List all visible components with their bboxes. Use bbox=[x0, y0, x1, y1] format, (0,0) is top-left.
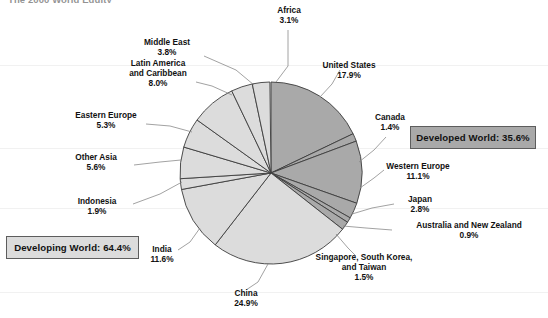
slice-label-japan: Japan 2.8% bbox=[398, 194, 442, 214]
slice-label-other-asia-pct: 5.6% bbox=[58, 162, 134, 172]
slice-label-china-name: China bbox=[234, 288, 257, 298]
slice-label-india-pct: 11.6% bbox=[138, 254, 186, 264]
slice-label-eastern-europe-pct: 5.3% bbox=[66, 120, 146, 130]
developed-world-summary-box: Developed World: 35.6% bbox=[410, 126, 536, 149]
slice-label-eastern-europe-name: Eastern Europe bbox=[75, 110, 136, 120]
slice-label-sskt-line1: Singapore, South Korea, bbox=[316, 252, 413, 262]
slice-label-china-pct: 24.9% bbox=[222, 298, 270, 308]
chart-canvas: The 2000 World Equity bbox=[0, 0, 548, 318]
leader-line-eastern-europe bbox=[146, 124, 192, 132]
slice-label-sskt-pct: 1.5% bbox=[294, 272, 434, 282]
slice-label-india: India 11.6% bbox=[138, 244, 186, 264]
slice-label-middle-east-name: Middle East bbox=[144, 37, 190, 47]
slice-label-singapore-korea-taiwan: Singapore, South Korea, and Taiwan 1.5% bbox=[294, 252, 434, 283]
pie-slice-group bbox=[180, 82, 362, 264]
slice-label-other-asia-name: Other Asia bbox=[75, 152, 117, 162]
slice-label-western-europe-name: Western Europe bbox=[386, 161, 449, 171]
leader-line-middle-east bbox=[204, 56, 254, 85]
slice-label-sskt-line2: and Taiwan bbox=[294, 262, 434, 272]
slice-label-middle-east: Middle East 3.8% bbox=[130, 37, 204, 57]
slice-label-australia-nz: Australia and New Zealand 0.9% bbox=[396, 220, 542, 240]
slice-label-china: China 24.9% bbox=[222, 288, 270, 308]
leader-line-china bbox=[246, 264, 268, 290]
leader-line-japan bbox=[352, 204, 394, 214]
slice-label-australia-nz-name: Australia and New Zealand bbox=[416, 220, 522, 230]
slice-label-africa-name: Africa bbox=[277, 5, 301, 15]
leader-line-canada bbox=[359, 137, 386, 162]
slice-label-other-asia: Other Asia 5.6% bbox=[58, 152, 134, 172]
slice-label-indonesia-pct: 1.9% bbox=[60, 206, 134, 216]
slice-label-middle-east-pct: 3.8% bbox=[130, 47, 204, 57]
slice-label-western-europe-pct: 11.1% bbox=[376, 171, 460, 181]
slice-label-africa-pct: 3.1% bbox=[254, 15, 324, 25]
leader-line-indonesia bbox=[133, 182, 182, 204]
slice-label-western-europe: Western Europe 11.1% bbox=[376, 161, 460, 181]
leader-line-other-asia bbox=[134, 160, 181, 165]
slice-label-japan-pct: 2.8% bbox=[398, 204, 442, 214]
slice-label-canada-name: Canada bbox=[375, 112, 405, 122]
leader-line-australia-nz bbox=[343, 226, 392, 230]
slice-label-indonesia-name: Indonesia bbox=[78, 196, 117, 206]
slice-label-africa: Africa 3.1% bbox=[254, 5, 324, 25]
slice-label-india-name: India bbox=[152, 244, 171, 254]
slice-label-japan-name: Japan bbox=[408, 194, 432, 204]
slice-label-canada: Canada 1.4% bbox=[366, 112, 414, 132]
slice-label-latin-america-pct: 8.0% bbox=[120, 78, 196, 88]
slice-label-united-states: United States 17.9% bbox=[310, 60, 388, 80]
slice-label-united-states-name: United States bbox=[322, 60, 375, 70]
slice-label-united-states-pct: 17.9% bbox=[310, 70, 388, 80]
slice-label-australia-nz-pct: 0.9% bbox=[396, 230, 542, 240]
slice-label-latin-america-line2: and Caribbean bbox=[120, 68, 196, 78]
slice-label-latin-america-line1: Latin America bbox=[131, 58, 186, 68]
leader-line-africa bbox=[276, 30, 288, 82]
slice-label-eastern-europe: Eastern Europe 5.3% bbox=[66, 110, 146, 130]
slice-label-canada-pct: 1.4% bbox=[366, 122, 414, 132]
slice-label-latin-america: Latin America and Caribbean 8.0% bbox=[120, 58, 196, 89]
developing-world-summary-box: Developing World: 64.4% bbox=[6, 236, 139, 259]
slice-label-indonesia: Indonesia 1.9% bbox=[60, 196, 134, 216]
